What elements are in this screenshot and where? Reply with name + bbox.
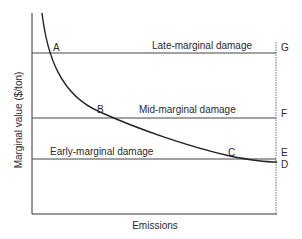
point-b-label: B bbox=[97, 104, 104, 115]
point-c-label: C bbox=[228, 147, 235, 158]
y-axis-label: Marginal value ($/ton) bbox=[13, 72, 24, 169]
g-label: G bbox=[281, 42, 289, 53]
late-marginal-damage-label: Late-marginal damage bbox=[152, 40, 252, 51]
e-label: E bbox=[281, 147, 288, 158]
d-label: D bbox=[281, 159, 288, 170]
point-a-label: A bbox=[53, 42, 60, 53]
x-axis-label: Emissions bbox=[132, 220, 178, 231]
marginal-value-curve bbox=[42, 13, 277, 162]
early-marginal-damage-label: Early-marginal damage bbox=[50, 146, 154, 157]
marginal-damage-diagram: Late-marginal damage Mid-marginal damage… bbox=[0, 0, 302, 239]
f-label: F bbox=[281, 108, 287, 119]
mid-marginal-damage-label: Mid-marginal damage bbox=[139, 104, 236, 115]
